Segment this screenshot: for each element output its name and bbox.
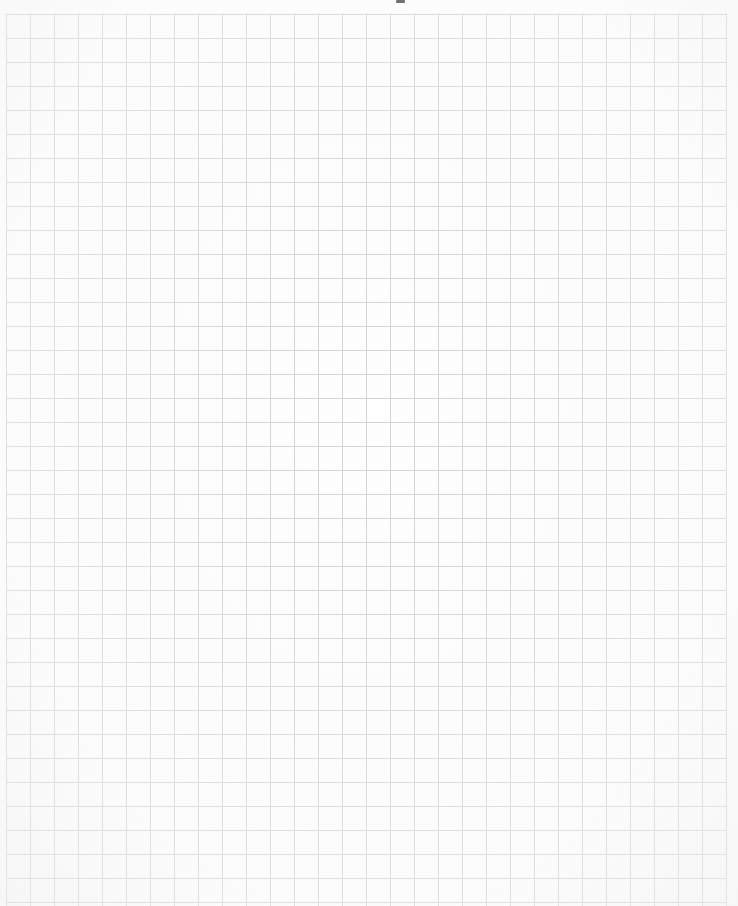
right-margin: [727, 0, 738, 906]
graph-paper-page: [0, 0, 738, 906]
left-margin: [0, 0, 6, 906]
scan-smudge-mark: [396, 0, 405, 3]
grid-layer: [0, 0, 738, 906]
top-margin: [0, 0, 738, 13]
grid-horizontal-rules: [0, 0, 738, 906]
